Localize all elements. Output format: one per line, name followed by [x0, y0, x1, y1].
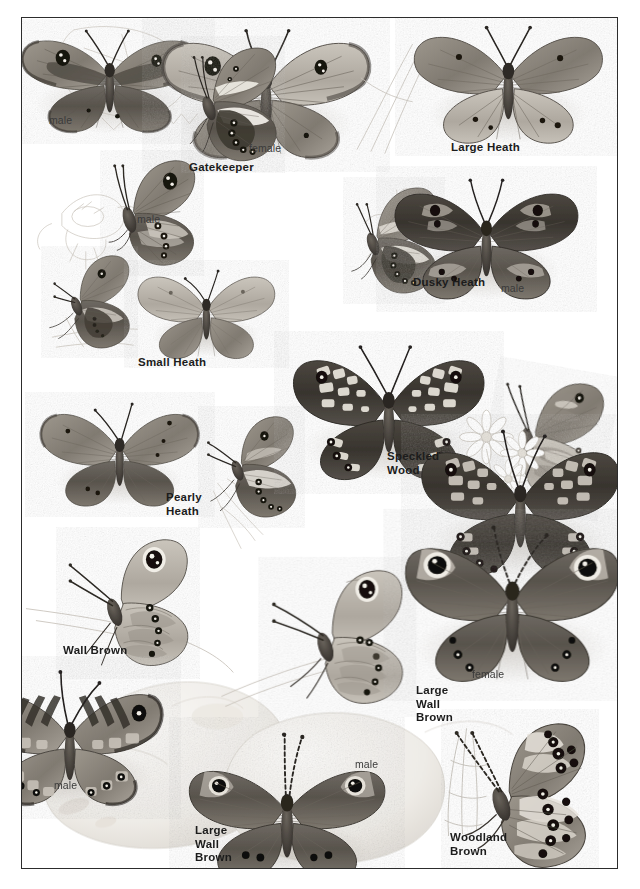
sex-label-gatekeeper-male-underside: male	[137, 213, 160, 225]
species-label-wall-brown: Wall Brown	[63, 644, 127, 658]
sketch-flower-gatekeeper	[38, 195, 146, 270]
specimen-pearly-heath-underside	[207, 417, 296, 517]
plate-frame: GatekeeperLarge HeathDusky HeathSmall He…	[21, 17, 618, 869]
species-label-large-wall-brown-right: Large Wall Brown	[416, 684, 453, 725]
species-label-speckled-wood: Speckled Wood	[387, 450, 439, 477]
specimen-small-heath-upperside	[138, 270, 275, 359]
sex-label-gatekeeper-male-upperside: male	[49, 114, 72, 126]
species-label-dusky-heath: Dusky Heath	[413, 276, 485, 290]
sex-label-wall-brown-male: male	[54, 779, 77, 791]
species-label-large-heath: Large Heath	[451, 141, 520, 155]
sex-label-large-wall-brown-female: female	[472, 668, 504, 680]
sex-label-gatekeeper-female-upperside: female	[249, 142, 281, 154]
butterfly-artwork	[22, 18, 617, 868]
species-label-woodland-brown: Woodland Brown	[450, 831, 507, 858]
illustration-plate: GatekeeperLarge HeathDusky HeathSmall He…	[0, 0, 640, 889]
specimen-large-heath-upperside	[414, 26, 602, 144]
species-label-large-wall-brown-bottom: Large Wall Brown	[195, 824, 232, 865]
sketch-grass-woodland-brown	[445, 728, 489, 836]
specimen-large-wall-brown-underside	[272, 571, 402, 704]
species-label-small-heath: Small Heath	[138, 356, 206, 370]
specimen-small-heath-underside	[50, 256, 130, 348]
sex-label-dusky-heath-male: male	[501, 282, 524, 294]
species-label-pearly-heath: Pearly Heath	[166, 491, 202, 518]
sex-label-large-wall-brown-male: male	[355, 758, 378, 770]
species-label-gatekeeper: Gatekeeper	[189, 161, 254, 175]
